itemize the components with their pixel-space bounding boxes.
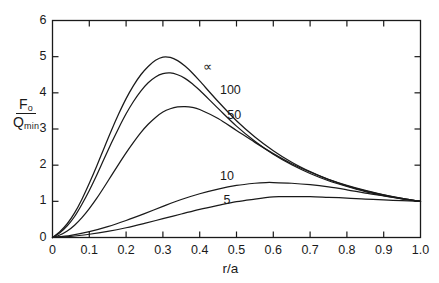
x-tick-label: 0.2 <box>109 243 143 257</box>
y-tick-label: 5 <box>21 49 47 63</box>
chart-figure: Fo Qmin r/a 00.10.20.30.40.50.60.70.80.9… <box>0 0 439 283</box>
x-tick-label: 0.5 <box>220 243 254 257</box>
curve-100 <box>53 73 421 238</box>
plot-area <box>0 0 439 283</box>
axis-ticks <box>53 21 421 238</box>
plot-border <box>53 21 421 238</box>
curve-label-5: 5 <box>224 193 231 207</box>
curve-label-100: 100 <box>220 83 241 97</box>
y-tick-label: 4 <box>21 85 47 99</box>
x-tick-label: 1.0 <box>404 243 438 257</box>
x-tick-label: 0 <box>36 243 70 257</box>
x-tick-label: 0.8 <box>330 243 364 257</box>
plot-frame <box>53 21 421 238</box>
y-tick-label: 1 <box>21 193 47 207</box>
curve-label-10: 10 <box>220 169 234 183</box>
x-tick-label: 0.7 <box>293 243 327 257</box>
y-tick-label: 6 <box>21 13 47 27</box>
x-tick-label: 0.4 <box>183 243 217 257</box>
curve-label-∝: ∝ <box>203 59 212 74</box>
x-tick-label: 0.3 <box>146 243 180 257</box>
y-tick-label: 3 <box>21 121 47 135</box>
curve-5 <box>53 197 421 238</box>
x-tick-label: 0.6 <box>256 243 290 257</box>
curve-label-50: 50 <box>227 108 241 122</box>
y-tick-label: 2 <box>21 157 47 171</box>
x-tick-label: 0.1 <box>72 243 106 257</box>
x-tick-label: 0.9 <box>367 243 401 257</box>
y-tick-label: 0 <box>21 230 47 244</box>
